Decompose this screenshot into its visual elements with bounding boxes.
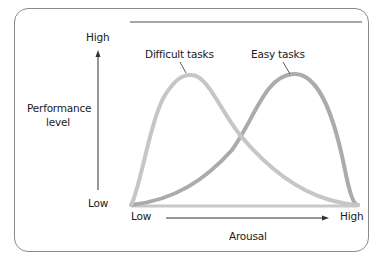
x-high-label: High <box>340 210 363 222</box>
difficult-tasks-curve <box>131 75 358 205</box>
y-title-line1: Performance <box>27 102 91 114</box>
difficult-tasks-label: Difficult tasks <box>145 48 214 60</box>
y-low-label: Low <box>88 197 108 209</box>
y-arrow-head-icon <box>96 50 101 57</box>
y-high-label: High <box>86 31 109 43</box>
easy-tasks-label: Easy tasks <box>251 48 305 60</box>
x-title: Arousal <box>229 230 267 242</box>
y-title-line2: level <box>46 116 70 128</box>
x-low-label: Low <box>131 210 151 222</box>
plot-area <box>0 0 381 268</box>
x-arrow-head-icon <box>322 216 329 221</box>
difficult-leader <box>180 62 186 73</box>
easy-leader <box>283 62 290 74</box>
